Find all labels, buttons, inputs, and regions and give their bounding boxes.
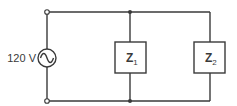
- bottom-junction-dot: [128, 99, 132, 103]
- z1-subscript: 1: [133, 58, 138, 67]
- top-junction-dot: [128, 10, 132, 14]
- impedance-z2: Z2: [194, 42, 225, 73]
- ac-source-icon: [38, 49, 56, 67]
- circuit-diagram: 120 V Z1 Z2: [0, 0, 237, 106]
- z1-label: Z: [126, 51, 133, 65]
- source-voltage-label: 120 V: [7, 52, 36, 64]
- impedance-z1: Z1: [115, 42, 146, 73]
- z2-label: Z: [205, 51, 212, 65]
- z2-subscript: 2: [212, 58, 217, 67]
- top-terminal: [45, 10, 50, 15]
- bottom-terminal: [45, 99, 50, 104]
